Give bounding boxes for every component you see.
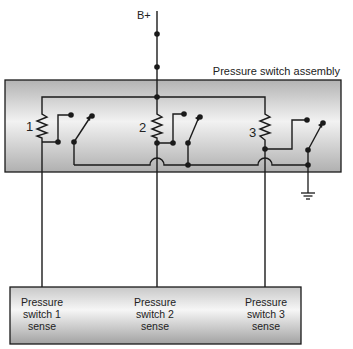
svg-text:switch 3: switch 3 [247, 308, 285, 320]
switch-2-number: 2 [139, 120, 146, 135]
supply-node-1 [154, 31, 160, 37]
switch-3-number: 3 [249, 125, 256, 140]
svg-text:Pressure: Pressure [21, 296, 63, 308]
svg-text:switch 1: switch 1 [23, 308, 61, 320]
svg-text:Pressure: Pressure [245, 296, 287, 308]
pressure-switch-diagram: Pressure switch assembly B+ 1 [0, 0, 353, 349]
assembly-label: Pressure switch assembly [213, 65, 341, 77]
top-bus-junction [154, 94, 160, 100]
switch-1-number: 1 [26, 119, 33, 134]
svg-text:Pressure: Pressure [134, 296, 176, 308]
supply-label: B+ [137, 9, 151, 21]
svg-text:sense: sense [141, 320, 169, 332]
supply-node-2 [154, 64, 160, 70]
svg-text:sense: sense [252, 320, 280, 332]
svg-text:switch 2: switch 2 [136, 308, 174, 320]
svg-text:sense: sense [28, 320, 56, 332]
